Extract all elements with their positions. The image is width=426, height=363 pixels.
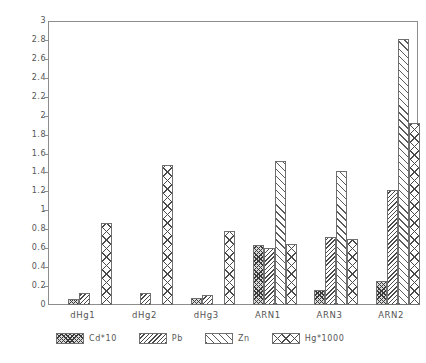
bar-hg-1000 bbox=[286, 244, 297, 305]
y-tick-label: 2 bbox=[12, 112, 46, 120]
bar-hg-1000 bbox=[347, 239, 358, 305]
legend-swatch-icon bbox=[272, 333, 300, 344]
chart-legend: Cd*10PbZnHg*1000 bbox=[56, 333, 366, 344]
legend-item: Cd*10 bbox=[56, 333, 117, 344]
bar-cd-10 bbox=[191, 298, 202, 305]
bars-layer bbox=[49, 22, 417, 305]
y-tick-label: 3 bbox=[12, 17, 46, 25]
y-tick-label: 2.8 bbox=[12, 36, 46, 44]
legend-swatch-icon bbox=[205, 333, 233, 344]
bar-cd-10 bbox=[314, 290, 325, 305]
bar-hg-1000 bbox=[224, 231, 235, 305]
bar-hg-1000 bbox=[101, 223, 112, 305]
x-tick-label: dHg2 bbox=[115, 311, 175, 320]
bar-hg-1000 bbox=[409, 123, 420, 305]
y-tick-label: 0.8 bbox=[12, 225, 46, 233]
bar-chart: 00.20.40.60.811.21.41.61.822.22.42.62.83… bbox=[0, 0, 426, 363]
bar-pb bbox=[79, 293, 90, 305]
legend-item: Zn bbox=[205, 333, 250, 344]
bar-pb bbox=[264, 248, 275, 305]
bar-zn bbox=[275, 161, 286, 305]
legend-swatch-icon bbox=[139, 333, 167, 344]
bar-hg-1000 bbox=[162, 165, 173, 305]
bar-group bbox=[68, 22, 112, 305]
legend-item: Hg*1000 bbox=[272, 333, 345, 344]
bar-group bbox=[253, 22, 297, 305]
bar-pb bbox=[140, 293, 151, 305]
x-tick-label: ARN2 bbox=[361, 311, 421, 320]
legend-swatch-icon bbox=[56, 333, 84, 344]
bar-zn bbox=[398, 39, 409, 305]
bar-cd-10 bbox=[376, 281, 387, 305]
y-tick-label: 2.2 bbox=[12, 93, 46, 101]
bar-pb bbox=[202, 295, 213, 305]
y-tick-label: 1.8 bbox=[12, 131, 46, 139]
y-tick-label: 1.4 bbox=[12, 168, 46, 176]
y-tick-label: 0.4 bbox=[12, 263, 46, 271]
x-tick-label: dHg3 bbox=[176, 311, 236, 320]
y-tick-label: 0.6 bbox=[12, 244, 46, 252]
bar-group bbox=[314, 22, 358, 305]
y-tick-label: 0 bbox=[12, 301, 46, 309]
legend-label: Cd*10 bbox=[89, 334, 117, 343]
x-tick-label: dHg1 bbox=[53, 311, 113, 320]
legend-label: Hg*1000 bbox=[305, 334, 345, 343]
bar-zn bbox=[336, 171, 347, 305]
legend-item: Pb bbox=[139, 333, 183, 344]
bar-cd-10 bbox=[68, 299, 79, 305]
x-tick-label: ARN3 bbox=[300, 311, 360, 320]
legend-label: Pb bbox=[172, 334, 183, 343]
y-tick-label: 2.4 bbox=[12, 74, 46, 82]
legend-label: Zn bbox=[238, 334, 250, 343]
bar-pb bbox=[325, 237, 336, 305]
bar-pb bbox=[387, 190, 398, 305]
y-tick-label: 0.2 bbox=[12, 282, 46, 290]
y-tick-label: 1.2 bbox=[12, 187, 46, 195]
bar-group bbox=[191, 22, 235, 305]
y-tick-label: 1.6 bbox=[12, 150, 46, 158]
y-tick-label: 2.6 bbox=[12, 55, 46, 63]
bar-group bbox=[376, 22, 420, 305]
bar-cd-10 bbox=[253, 245, 264, 305]
y-tick-label: 1 bbox=[12, 206, 46, 214]
x-tick-label: ARN1 bbox=[238, 311, 298, 320]
bar-group bbox=[129, 22, 173, 305]
